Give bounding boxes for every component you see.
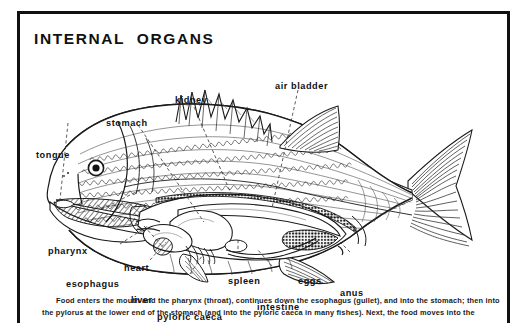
label-eggs: eggs bbox=[298, 276, 322, 286]
page-title: INTERNAL ORGANS bbox=[34, 30, 214, 48]
caudal-fin bbox=[408, 130, 472, 246]
figure-panel: INTERNAL ORGANS bbox=[20, 14, 507, 323]
figure-page: INTERNAL ORGANS bbox=[0, 0, 528, 325]
label-heart: heart bbox=[124, 263, 149, 273]
label-air-bladder: air bladder bbox=[275, 81, 328, 91]
fish-eye bbox=[88, 160, 103, 175]
caption-paragraph: Food enters the mouth and the pharynx (t… bbox=[42, 295, 497, 319]
anus-organ bbox=[338, 246, 343, 255]
label-pharynx: pharynx bbox=[48, 246, 88, 256]
label-spleen: spleen bbox=[228, 276, 260, 286]
heart-organ bbox=[154, 238, 173, 255]
fish-anatomy-illustration bbox=[20, 50, 510, 288]
label-esophagus: esophagus bbox=[66, 279, 119, 289]
label-kidney: kidney bbox=[175, 95, 207, 105]
label-tongue: tongue bbox=[36, 150, 70, 160]
label-stomach: stomach bbox=[106, 118, 148, 128]
figure-frame: INTERNAL ORGANS bbox=[17, 11, 510, 323]
leader-anus bbox=[340, 242, 350, 252]
caption-line-1: Food enters the mouth and the pharynx (t… bbox=[42, 295, 497, 307]
caption-line-2: the pylorus at the lower end of the stom… bbox=[42, 307, 497, 319]
